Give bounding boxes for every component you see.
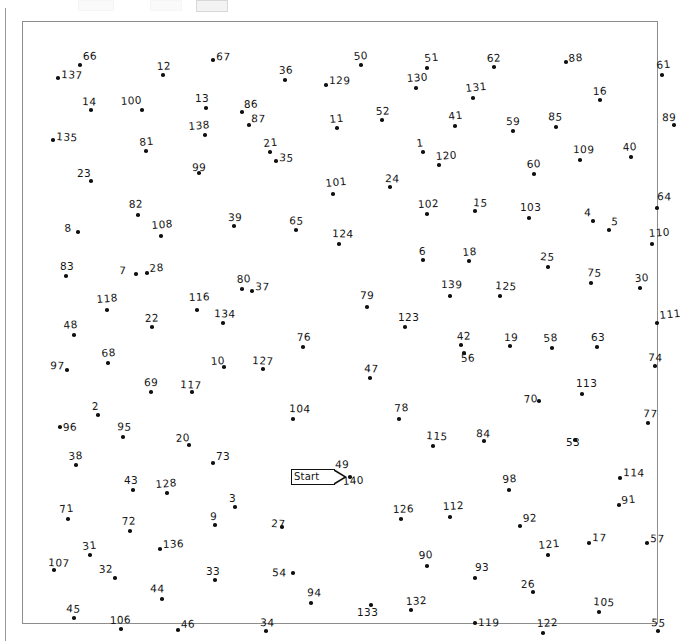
dot-3[interactable] [233, 505, 237, 509]
dot-1[interactable] [421, 150, 425, 154]
dot-138[interactable] [203, 133, 207, 137]
dot-101[interactable] [331, 192, 335, 196]
dot-71[interactable] [66, 517, 70, 521]
dot-61[interactable] [660, 73, 664, 77]
dot-124[interactable] [337, 242, 341, 246]
dot-128[interactable] [165, 491, 169, 495]
dot-72[interactable] [128, 529, 132, 533]
dot-67[interactable] [211, 58, 215, 62]
dot-59[interactable] [511, 129, 515, 133]
dot-113[interactable] [580, 392, 584, 396]
dot-84[interactable] [482, 439, 486, 443]
dot-89[interactable] [672, 123, 676, 127]
dot-31[interactable] [88, 553, 92, 557]
dot-96[interactable] [58, 425, 62, 429]
dot-9[interactable] [213, 523, 217, 527]
dot-136[interactable] [158, 547, 162, 551]
dot-108[interactable] [159, 234, 163, 238]
dot-55[interactable] [656, 629, 660, 633]
dot-134[interactable] [221, 321, 225, 325]
dot-114[interactable] [618, 476, 622, 480]
dot-40[interactable] [629, 155, 633, 159]
dot-7[interactable] [134, 272, 138, 276]
dot-92[interactable] [518, 524, 522, 528]
dot-85[interactable] [554, 125, 558, 129]
dot-115[interactable] [431, 444, 435, 448]
dot-4[interactable] [591, 219, 595, 223]
dot-60[interactable] [532, 172, 536, 176]
dot-45[interactable] [72, 616, 76, 620]
dot-5[interactable] [607, 228, 611, 232]
dot-127[interactable] [261, 367, 265, 371]
dot-78[interactable] [397, 417, 401, 421]
dot-73[interactable] [211, 461, 215, 465]
dot-83[interactable] [64, 274, 68, 278]
dot-20[interactable] [187, 443, 191, 447]
dot-88[interactable] [564, 60, 568, 64]
dot-63[interactable] [595, 345, 599, 349]
dot-81[interactable] [144, 149, 148, 153]
dot-75[interactable] [589, 281, 593, 285]
dot-39[interactable] [232, 224, 236, 228]
dot-102[interactable] [425, 212, 429, 216]
dot-104[interactable] [291, 417, 295, 421]
dot-24[interactable] [388, 185, 392, 189]
dot-44[interactable] [160, 597, 164, 601]
dot-46[interactable] [176, 628, 180, 632]
dot-105[interactable] [597, 610, 601, 614]
dot-21[interactable] [268, 150, 272, 154]
dot-64[interactable] [655, 206, 659, 210]
dot-90[interactable] [425, 564, 429, 568]
dot-35[interactable] [274, 159, 278, 163]
dot-132[interactable] [409, 608, 413, 612]
dot-47[interactable] [368, 376, 372, 380]
dot-8[interactable] [76, 230, 80, 234]
dot-48[interactable] [72, 333, 76, 337]
dot-126[interactable] [399, 517, 403, 521]
dot-77[interactable] [646, 421, 650, 425]
dot-50[interactable] [359, 63, 363, 67]
dot-130[interactable] [414, 86, 418, 90]
dot-42[interactable] [459, 343, 463, 347]
dot-19[interactable] [508, 344, 512, 348]
dot-80[interactable] [240, 287, 244, 291]
dot-37[interactable] [250, 289, 254, 293]
dot-51[interactable] [425, 66, 429, 70]
dot-93[interactable] [473, 576, 477, 580]
dot-32[interactable] [113, 576, 117, 580]
dot-137[interactable] [56, 76, 60, 80]
dot-118[interactable] [105, 308, 109, 312]
dot-14[interactable] [89, 108, 93, 112]
dot-112[interactable] [448, 515, 452, 519]
dot-58[interactable] [550, 346, 554, 350]
dot-76[interactable] [301, 345, 305, 349]
dot-120[interactable] [437, 163, 441, 167]
dot-129[interactable] [324, 83, 328, 87]
dot-69[interactable] [149, 390, 153, 394]
dot-100[interactable] [140, 108, 144, 112]
dot-23[interactable] [89, 179, 93, 183]
dot-12[interactable] [161, 73, 165, 77]
dot-15[interactable] [473, 209, 477, 213]
dot-94[interactable] [309, 601, 313, 605]
dot-52[interactable] [380, 118, 384, 122]
dot-6[interactable] [421, 258, 425, 262]
dot-38[interactable] [74, 463, 78, 467]
dot-33[interactable] [213, 578, 217, 582]
dot-91[interactable] [617, 503, 621, 507]
dot-135[interactable] [51, 138, 55, 142]
dot-43[interactable] [131, 488, 135, 492]
dot-57[interactable] [645, 541, 649, 545]
dot-68[interactable] [106, 361, 110, 365]
dot-30[interactable] [638, 286, 642, 290]
dot-18[interactable] [467, 259, 471, 263]
dot-111[interactable] [655, 321, 659, 325]
dot-11[interactable] [335, 126, 339, 130]
dot-139[interactable] [448, 294, 452, 298]
dot-16[interactable] [598, 98, 602, 102]
dot-131[interactable] [471, 96, 475, 100]
dot-97[interactable] [65, 368, 69, 372]
dot-122[interactable] [541, 631, 545, 635]
dot-125[interactable] [498, 294, 502, 298]
dot-106[interactable] [119, 627, 123, 631]
